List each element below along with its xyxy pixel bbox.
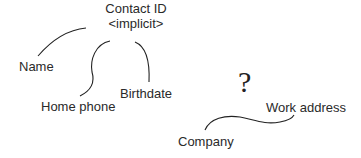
link-home-phone (80, 41, 110, 96)
contact-id-node: Contact ID <implicit> (96, 1, 176, 31)
question-mark-icon: ? (238, 67, 251, 97)
link-company-work-address (205, 115, 294, 130)
home-phone-label: Home phone (41, 99, 115, 114)
birthdate-label: Birthdate (120, 86, 172, 101)
contact-id-implicit-label: <implicit> (96, 16, 176, 31)
contact-id-label: Contact ID (96, 1, 176, 16)
work-address-label: Work address (266, 100, 346, 115)
name-label: Name (19, 59, 54, 74)
link-name (38, 28, 86, 56)
link-birthdate (135, 42, 149, 82)
company-label: Company (178, 134, 234, 149)
